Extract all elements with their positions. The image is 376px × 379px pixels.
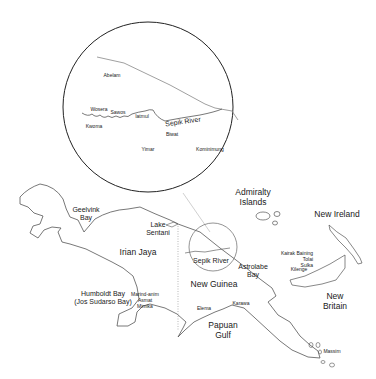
label-geelvink-bay: Geelvink Bay xyxy=(72,206,99,222)
label-new-britain: New Britain xyxy=(323,292,347,312)
new-ireland-outline xyxy=(329,225,362,264)
label-new-ireland: New Ireland xyxy=(314,210,359,220)
label-wosera: Wosera xyxy=(90,107,107,113)
label-papuan-gulf: Papuan Gulf xyxy=(208,321,237,341)
label-karawa: Karawa xyxy=(233,301,250,307)
label-yimar: Yimar xyxy=(142,147,155,153)
label-abelam: Abelam xyxy=(104,73,121,79)
label-iatmul: Iatmul xyxy=(135,114,149,120)
inset-connector xyxy=(183,193,210,232)
label-irian-jaya: Irian Jaya xyxy=(120,248,157,258)
label-kwoma: Kwoma xyxy=(86,124,103,130)
inset-circle xyxy=(63,22,233,192)
label-massim: Massim xyxy=(323,349,340,355)
label-humboldt-bay: Humboldt Bay (Jos Sudarso Bay) xyxy=(74,290,132,306)
label-sawos: Sawos xyxy=(110,110,125,116)
label-lake-sentani: Lake Sentani xyxy=(146,221,170,237)
label-kilenge: Kilenge xyxy=(291,267,308,273)
label-kominimung: Kominimung xyxy=(196,147,224,153)
map-graphic xyxy=(0,0,376,379)
label-biwat: Biwat xyxy=(166,132,178,138)
label-sepik-river: Sepik River xyxy=(193,257,229,265)
label-astrolabe-bay: Astrolabe Bay xyxy=(238,263,268,279)
label-admiralty-islands: Admiralty Islands xyxy=(235,188,270,208)
label-elema: Elema xyxy=(197,306,211,312)
new-guinea-outline xyxy=(20,184,320,358)
label-marind-anim: Marind-anim Asmat Mimika xyxy=(131,292,159,309)
label-new-guinea: New Guinea xyxy=(191,280,238,290)
